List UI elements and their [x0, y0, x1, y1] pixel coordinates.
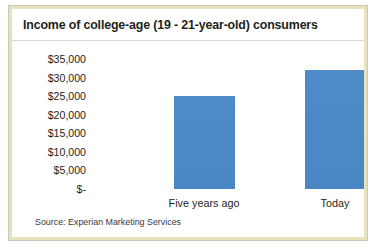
y-tick-label: $30,000 — [12, 72, 86, 84]
chart-card: Income of college-age (19 - 21-year-old)… — [12, 9, 364, 237]
y-tick-label: $15,000 — [12, 127, 86, 139]
bar-fill — [174, 96, 235, 189]
y-tick-label: $10,000 — [12, 146, 86, 158]
bar — [174, 96, 235, 189]
y-tick-label: $35,000 — [12, 53, 86, 65]
chart-figure: Income of college-age (19 - 21-year-old)… — [0, 0, 375, 252]
bar-fill — [305, 70, 365, 189]
y-tick-label: $- — [12, 183, 86, 195]
y-tick-label: $20,000 — [12, 109, 86, 121]
source-note: Source: Experian Marketing Services — [35, 217, 181, 227]
chart-title: Income of college-age (19 - 21-year-old)… — [23, 18, 318, 32]
plot-area: $35,000$30,000$25,000$20,000$15,000$10,0… — [12, 41, 364, 237]
x-tick-label: Today — [321, 197, 350, 209]
x-tick-label: Five years ago — [169, 197, 240, 209]
y-tick-label: $25,000 — [12, 90, 86, 102]
y-tick-label: $5,000 — [12, 164, 86, 176]
bar — [305, 70, 365, 189]
